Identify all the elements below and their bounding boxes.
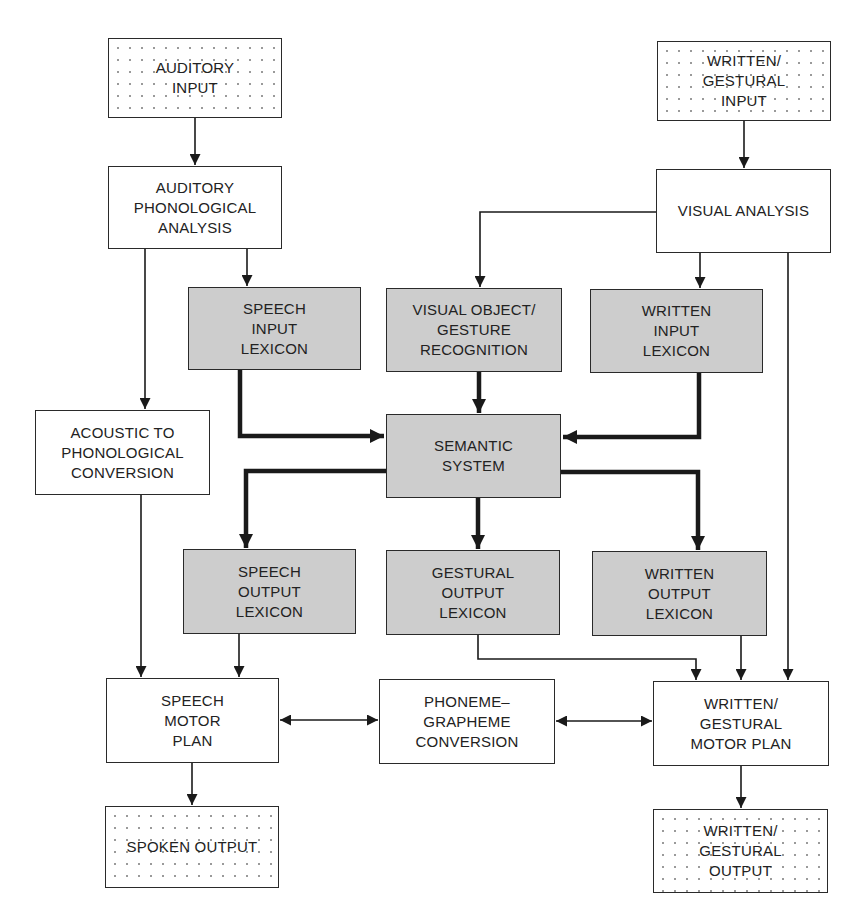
node-label: AUDITORY PHONOLOGICAL ANALYSIS <box>134 178 256 238</box>
node-visual-analysis: VISUAL ANALYSIS <box>656 169 831 253</box>
node-written-gestural-output: WRITTEN/ GESTURAL OUTPUT <box>653 809 828 893</box>
node-label: ACOUSTIC TO PHONOLOGICAL CONVERSION <box>61 423 183 483</box>
node-label: WRITTEN/ GESTURAL MOTOR PLAN <box>691 694 792 754</box>
node-written-gestural-input: WRITTEN/ GESTURAL INPUT <box>657 41 831 121</box>
node-label: GESTURAL OUTPUT LEXICON <box>432 563 514 623</box>
node-acoustic-to-phonological-conversion: ACOUSTIC TO PHONOLOGICAL CONVERSION <box>35 410 210 495</box>
node-auditory-input: AUDITORY INPUT <box>108 38 282 118</box>
node-label: SPOKEN OUTPUT <box>127 837 258 857</box>
node-auditory-phonological-analysis: AUDITORY PHONOLOGICAL ANALYSIS <box>108 166 282 249</box>
node-label: SPEECH INPUT LEXICON <box>241 299 308 359</box>
node-written-gestural-motor-plan: WRITTEN/ GESTURAL MOTOR PLAN <box>653 681 829 766</box>
edge-written-input-to-semantic <box>563 373 699 437</box>
node-phoneme-grapheme-conversion: PHONEME– GRAPHEME CONVERSION <box>379 679 555 764</box>
node-label: WRITTEN INPUT LEXICON <box>642 301 712 361</box>
language-processing-diagram: AUDITORY INPUT WRITTEN/ GESTURAL INPUT A… <box>0 0 867 917</box>
node-label: PHONEME– GRAPHEME CONVERSION <box>416 692 519 752</box>
node-spoken-output: SPOKEN OUTPUT <box>105 806 279 888</box>
node-label: WRITTEN/ GESTURAL OUTPUT <box>699 821 781 881</box>
node-label: SEMANTIC SYSTEM <box>434 436 513 476</box>
node-speech-input-lexicon: SPEECH INPUT LEXICON <box>188 287 361 370</box>
node-label: VISUAL OBJECT/ GESTURE RECOGNITION <box>412 300 535 360</box>
node-gestural-output-lexicon: GESTURAL OUTPUT LEXICON <box>386 550 560 635</box>
node-label: SPEECH OUTPUT LEXICON <box>236 562 303 622</box>
node-label: WRITTEN/ GESTURAL INPUT <box>703 51 785 111</box>
node-label: WRITTEN OUTPUT LEXICON <box>645 564 715 624</box>
edge-semantic-to-speech-output <box>246 471 386 548</box>
node-visual-object-gesture-recognition: VISUAL OBJECT/ GESTURE RECOGNITION <box>386 288 562 372</box>
node-speech-output-lexicon: SPEECH OUTPUT LEXICON <box>183 549 356 634</box>
edge-speech-input-to-semantic <box>240 370 384 436</box>
node-written-input-lexicon: WRITTEN INPUT LEXICON <box>590 289 763 373</box>
node-written-output-lexicon: WRITTEN OUTPUT LEXICON <box>592 551 767 636</box>
edge-gestural-output-to-motor <box>478 635 696 680</box>
node-label: SPEECH MOTOR PLAN <box>161 691 224 751</box>
edge-semantic-to-written-output <box>561 472 698 550</box>
edge-visual-to-object-recognition <box>480 212 656 287</box>
node-label: VISUAL ANALYSIS <box>678 201 809 221</box>
node-semantic-system: SEMANTIC SYSTEM <box>386 414 561 498</box>
node-speech-motor-plan: SPEECH MOTOR PLAN <box>106 678 279 763</box>
node-label: AUDITORY INPUT <box>156 58 235 98</box>
